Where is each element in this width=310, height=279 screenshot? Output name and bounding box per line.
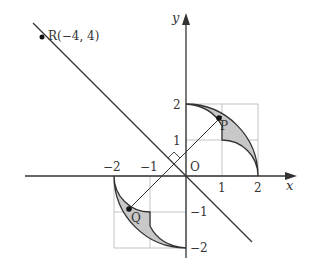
point-r bbox=[40, 35, 45, 40]
axes bbox=[25, 18, 292, 258]
y-tick-neg2: −2 bbox=[190, 241, 208, 255]
x-axis-label: x bbox=[286, 178, 294, 193]
point-q-label: Q bbox=[131, 211, 141, 225]
y-axis-arrow-icon bbox=[182, 13, 190, 25]
y-axis-label: y bbox=[171, 10, 180, 25]
y-tick-neg1: −1 bbox=[190, 205, 208, 219]
x-tick-1: 1 bbox=[218, 181, 226, 195]
right-angle-marker bbox=[168, 152, 180, 158]
point-r-label: R(−4, 4) bbox=[48, 29, 99, 43]
x-tick-neg2: −2 bbox=[103, 160, 121, 174]
y-tick-2: 2 bbox=[173, 98, 181, 112]
origin-label: O bbox=[190, 160, 200, 174]
coordinate-diagram: R(−4, 4) P Q O x y −2 −1 1 2 2 1 −1 −2 bbox=[0, 0, 310, 279]
x-tick-neg1: −1 bbox=[140, 160, 158, 174]
x-tick-2: 2 bbox=[254, 181, 262, 195]
y-tick-1: 1 bbox=[173, 134, 181, 148]
point-p-label: P bbox=[220, 119, 228, 133]
